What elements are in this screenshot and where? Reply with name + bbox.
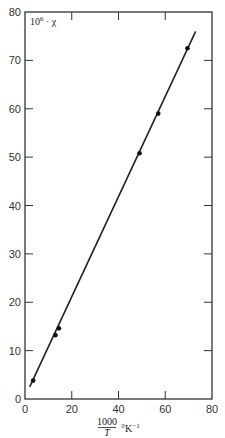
- x-label-numerator: 1000: [97, 416, 117, 427]
- y-tick-label: 40: [9, 200, 21, 212]
- axes: [25, 12, 212, 399]
- axis-labels: 01020304050607080020406080106 · χ1000T°K…: [9, 6, 218, 438]
- y-tick-label: 10: [9, 345, 21, 357]
- plot-area: [30, 31, 196, 387]
- chart: 01020304050607080020406080106 · χ1000T°K…: [0, 0, 225, 438]
- x-label-unit: °K−1: [121, 422, 140, 434]
- plot-frame: [25, 12, 212, 399]
- x-tick-label: 80: [206, 403, 218, 415]
- x-tick-label: 40: [112, 403, 124, 415]
- x-tick-label: 20: [66, 403, 78, 415]
- data-point: [137, 151, 142, 156]
- data-point: [53, 333, 58, 338]
- y-tick-label: 60: [9, 103, 21, 115]
- y-tick-label: 50: [9, 151, 21, 163]
- x-tick-label: 0: [22, 403, 28, 415]
- y-tick-label: 30: [9, 248, 21, 260]
- data-point: [185, 46, 190, 51]
- y-axis-label: 106 · χ: [30, 15, 57, 27]
- data-point: [156, 111, 161, 116]
- y-tick-label: 0: [15, 393, 21, 405]
- x-tick-label: 60: [159, 403, 171, 415]
- data-point: [57, 326, 62, 331]
- y-tick-label: 80: [9, 6, 21, 18]
- y-tick-label: 70: [9, 54, 21, 66]
- data-point: [31, 378, 36, 383]
- x-label-denominator: T: [104, 427, 111, 438]
- y-tick-label: 20: [9, 296, 21, 308]
